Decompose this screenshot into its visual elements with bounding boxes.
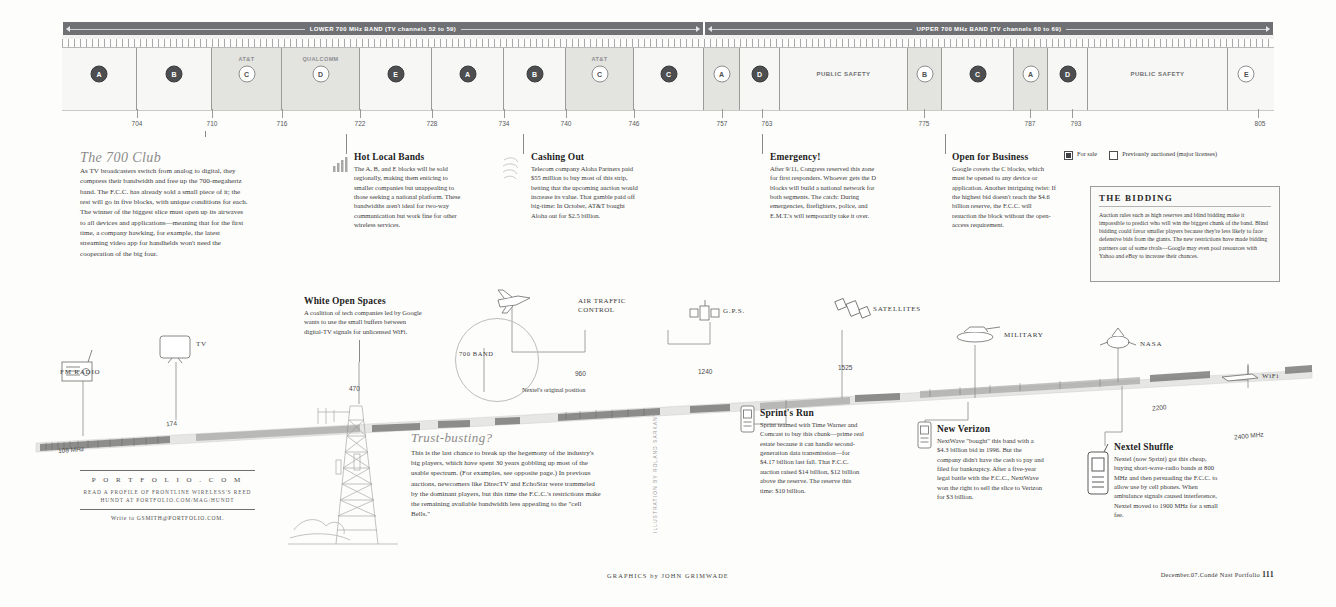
block-label: PUBLIC SAFETY xyxy=(1130,71,1184,77)
bidding-title: THE BIDDING xyxy=(1099,193,1271,203)
block-d-qualcomm[interactable]: QUALCOMM D xyxy=(282,48,360,110)
issue-text: December.07.Condé Nast Portfolio xyxy=(1161,571,1262,578)
portfolio-promo[interactable]: P O R T F O L I O . C O M READ A PROFILE… xyxy=(80,470,255,521)
callout-body: This is the last chance to break up the … xyxy=(411,448,601,520)
divider xyxy=(1099,206,1271,207)
block-letter: E xyxy=(1238,66,1255,83)
band-header-upper: UPPER 700 MHz BAND (TV channels 60 to 69… xyxy=(704,22,1274,35)
illustration-credit: ILLUSTRATION BY ROLAND SARKANY xyxy=(652,412,662,533)
callout-title: Emergency! xyxy=(770,152,878,162)
callout-body: A coalition of tech companies led by Goo… xyxy=(304,308,422,336)
callout-title: Nextel Shuffle xyxy=(1114,442,1220,452)
block-letter: B xyxy=(916,66,933,83)
device-label-gps: G.P.S. xyxy=(723,307,745,315)
axis-tick-label: 734 xyxy=(499,120,510,127)
callout-body: Telecom company Aloha Partners paid $55 … xyxy=(531,164,641,220)
block-e-upper[interactable]: E xyxy=(1228,48,1274,110)
frequency-axis: 704 710 716 722 728 734 740 746 757 763 … xyxy=(62,109,1274,134)
callout-body: The A, B, and E blocks will be sold regi… xyxy=(354,164,462,230)
callout-sprints-run: Sprint's Run Sprint teamed with Time War… xyxy=(760,408,866,495)
block-c-upper[interactable]: C xyxy=(942,48,1014,110)
block-a-upper1[interactable]: A xyxy=(704,48,740,110)
gps-satellite-icon xyxy=(690,300,719,320)
block-letter: B xyxy=(526,66,543,83)
block-d-upper1[interactable]: D xyxy=(740,48,780,110)
block-a-lower1[interactable]: A xyxy=(62,48,137,110)
device-label-military: MILITARY xyxy=(1004,331,1044,339)
wifi-router-icon xyxy=(1222,364,1258,381)
freq-label-2200: 2200 xyxy=(1152,403,1167,411)
block-b-upper[interactable]: B xyxy=(908,48,942,110)
callout-new-verizon: New Verizon NextWave "bought" this band … xyxy=(937,424,1045,502)
callout-title: Open for Business xyxy=(952,152,1056,162)
block-c-lower3[interactable]: C xyxy=(634,48,704,110)
tv-icon xyxy=(160,336,190,363)
freq-label-1525: 1525 xyxy=(838,364,852,371)
axis-tick-label: 787 xyxy=(1025,120,1036,127)
block-owner: AT&T xyxy=(592,56,608,62)
callout-open-for-business: Open for Business Google covets the C bl… xyxy=(952,152,1056,230)
legend-item-previously-auctioned: Previously auctioned (major licenses) xyxy=(1109,150,1217,160)
callout-emergency: Emergency! After 9/11, Congress reserved… xyxy=(770,152,878,220)
device-label-air-traffic-control: AIR TRAFFIC CONTROL xyxy=(578,297,642,315)
block-c-att-lower[interactable]: AT&T C xyxy=(212,48,282,110)
cellphone-icon-verizon xyxy=(918,422,931,448)
for-sale-swatch-icon xyxy=(1064,151,1073,160)
block-a-lower2[interactable]: A xyxy=(432,48,504,110)
bidding-body: Auction rules such as high reserves and … xyxy=(1099,211,1271,260)
block-letter: D xyxy=(1059,66,1076,83)
block-a-upper2[interactable]: A xyxy=(1014,48,1048,110)
tank-icon xyxy=(957,327,1000,342)
leader-emergency xyxy=(762,134,763,154)
block-letter: C xyxy=(969,66,986,83)
callout-body: Nextel (now Sprint) got this cheap, buyi… xyxy=(1114,454,1220,520)
satellites-icon xyxy=(835,298,871,318)
callout-body: Google covets the C blocks, which must b… xyxy=(952,164,1056,230)
band-header-lower-label: LOWER 700 MHz BAND (TV channels 52 to 59… xyxy=(305,26,461,32)
block-letter: D xyxy=(312,66,329,83)
issue-footer: December.07.Condé Nast Portfolio 111 xyxy=(1161,570,1274,579)
axis-tick-label: 710 xyxy=(207,120,218,127)
callout-white-open-spaces: White Open Spaces A coalition of tech co… xyxy=(304,296,422,336)
band-header-lower: LOWER 700 MHz BAND (TV channels 52 to 59… xyxy=(62,22,704,35)
block-e-lower[interactable]: E xyxy=(360,48,432,110)
sweep-leader-lines xyxy=(83,302,1248,436)
cellphone-icon-sprint xyxy=(741,406,754,432)
axis-tick-label: 793 xyxy=(1071,120,1082,127)
callout-title: New Verizon xyxy=(937,424,1045,434)
block-d-upper2[interactable]: D xyxy=(1048,48,1088,110)
callout-nextel-shuffle: Nextel Shuffle Nextel (now Sprint) got t… xyxy=(1114,442,1220,520)
block-letter: A xyxy=(459,66,476,83)
axis-tick-label: 805 xyxy=(1255,120,1266,127)
leader-white-spaces xyxy=(359,340,360,362)
block-c-att-lower2[interactable]: AT&T C xyxy=(566,48,634,110)
device-label-fm-radio: FM RADIO xyxy=(60,368,100,376)
band-header-bar: LOWER 700 MHz BAND (TV channels 52 to 59… xyxy=(62,22,1274,35)
cell-tower-illustration xyxy=(288,398,398,548)
block-public-safety-2[interactable]: PUBLIC SAFETY xyxy=(1088,48,1228,110)
axis-tick-label: 722 xyxy=(355,120,366,127)
callout-title: White Open Spaces xyxy=(304,296,422,306)
leader-cashing-out xyxy=(523,134,524,154)
leader-open-business xyxy=(945,134,946,154)
block-b-lower2[interactable]: B xyxy=(504,48,566,110)
block-b-lower1[interactable]: B xyxy=(137,48,212,110)
spectrum-ribbon xyxy=(36,365,1312,452)
block-letter: C xyxy=(591,66,608,83)
block-public-safety-1[interactable]: PUBLIC SAFETY xyxy=(780,48,908,110)
freq-label-960: 960 xyxy=(575,370,586,377)
signal-bars-icon xyxy=(333,157,348,172)
legend-label: Previously auctioned (major licenses) xyxy=(1122,150,1217,158)
callout-title: Trust-busting? xyxy=(411,430,601,446)
device-label-nasa: NASA xyxy=(1140,340,1162,348)
cellphone-icon-nextel xyxy=(1088,444,1108,494)
legend-item-for-sale: For sale xyxy=(1064,150,1097,160)
page-number: 111 xyxy=(1262,570,1274,579)
axis-tick-label: 740 xyxy=(561,120,572,127)
freq-label-1240: 1240 xyxy=(698,368,712,375)
device-label-satellites: SATELLITES xyxy=(873,305,921,313)
block-letter: A xyxy=(91,66,108,83)
callout-trust-busting: Trust-busting? This is the last chance t… xyxy=(411,430,601,520)
block-letter: A xyxy=(1022,66,1039,83)
device-label-700-band: 700 BAND xyxy=(459,350,494,357)
